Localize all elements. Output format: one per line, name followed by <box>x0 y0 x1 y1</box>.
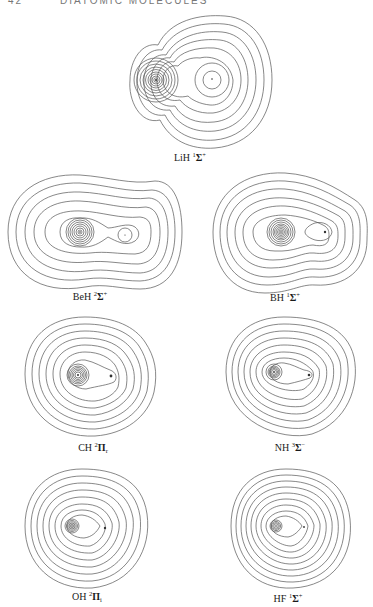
beh-contour-plot <box>0 165 190 300</box>
molecule-name: LiH <box>174 152 190 163</box>
molecule-name: BeH <box>73 291 91 302</box>
molecule-name: CH <box>78 442 92 453</box>
figure-ch <box>20 312 170 442</box>
term-suffix: + <box>202 151 206 158</box>
term-subscript: r <box>106 447 108 454</box>
term-symbol: Π <box>92 591 100 602</box>
caption-lih: LiH 1Σ+ <box>174 151 206 163</box>
oh-contour-plot <box>22 464 157 594</box>
term-suffix: + <box>296 291 300 298</box>
bh-contour-plot <box>205 165 373 300</box>
ch-contour-plot <box>20 312 170 442</box>
caption-ch: CH 2Πr <box>78 441 108 454</box>
figure-beh <box>0 165 190 300</box>
molecule-name: HF <box>274 593 287 604</box>
caption-oh: OH 2Πi <box>72 590 102 603</box>
figure-bh <box>205 165 373 300</box>
lih-contour-plot <box>0 0 373 170</box>
term-suffix: + <box>299 592 303 599</box>
nh-contour-plot <box>222 312 362 442</box>
caption-hf: HF 1Σ+ <box>274 592 303 604</box>
caption-beh: BeH 2Σ+ <box>73 290 107 302</box>
caption-nh: NH 3Σ− <box>275 441 305 453</box>
figure-hf <box>228 464 358 594</box>
term-suffix: − <box>302 441 306 448</box>
figure-nh <box>222 312 362 442</box>
term-suffix: + <box>103 290 107 297</box>
figure-oh <box>22 464 157 594</box>
figure-lih <box>0 0 373 170</box>
caption-bh: BH 1Σ+ <box>270 291 300 303</box>
molecule-name: BH <box>270 292 284 303</box>
term-subscript: i <box>100 596 102 603</box>
molecule-name: NH <box>275 442 289 453</box>
molecule-name: OH <box>72 591 86 602</box>
hf-contour-plot <box>228 464 358 594</box>
